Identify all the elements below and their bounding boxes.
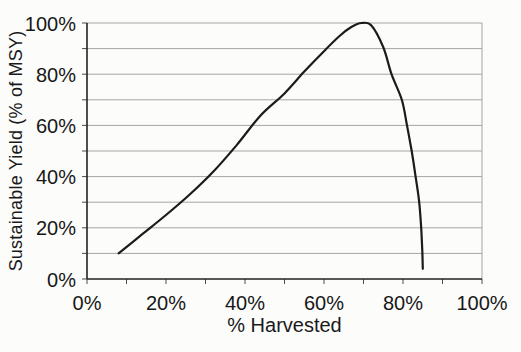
y-tick-label: 100% [25,13,76,35]
y-tick-label: 20% [36,217,76,239]
y-tick-label: 0% [47,269,76,291]
sustainable-yield-curve [119,23,423,269]
x-axis-title: % Harvested [87,312,482,338]
x-tick-label: 100% [456,292,507,314]
x-tick-label: 40% [225,292,265,314]
x-tick-labels: 0%20%40%60%80%100% [73,292,508,314]
chart-canvas: 0%20%40%60%80%100%0%20%40%60%80%100% [0,0,521,352]
y-tick-label: 60% [36,115,76,137]
y-tick-label: 80% [36,64,76,86]
y-tick-label: 40% [36,166,76,188]
x-tick-label: 60% [304,292,344,314]
chart: Sustainable Yield (% of MSY) 0%20%40%60%… [0,0,521,352]
x-tick-label: 80% [383,292,423,314]
series [119,23,423,269]
x-tick-label: 0% [73,292,102,314]
y-tick-labels: 0%20%40%60%80%100% [25,13,76,291]
x-tick-label: 20% [146,292,186,314]
